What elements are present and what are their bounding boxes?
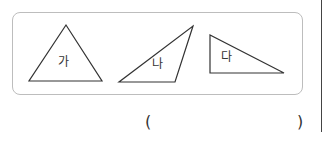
- triangle-label-da: 다: [221, 51, 232, 63]
- answer-open-paren: (: [145, 114, 151, 130]
- triangle-na: [119, 26, 193, 82]
- triangles-figure: [0, 0, 323, 142]
- triangle-ga: [29, 25, 102, 81]
- triangle-label-ga: 가: [58, 56, 69, 68]
- triangle-label-na: 나: [152, 58, 163, 70]
- answer-close-paren: ): [297, 114, 303, 130]
- column-divider: [321, 0, 322, 132]
